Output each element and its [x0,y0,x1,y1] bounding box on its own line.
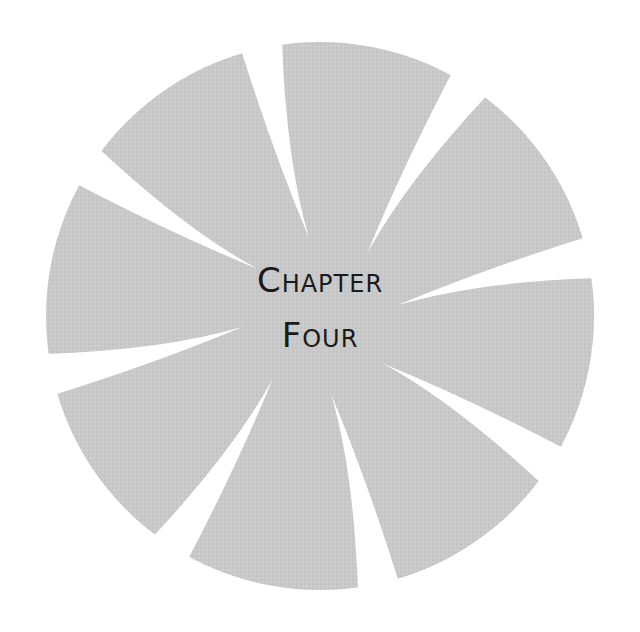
chapter-heading-line-1: Chapter [0,263,640,297]
chapter-heading-line-2: Four [0,318,640,352]
